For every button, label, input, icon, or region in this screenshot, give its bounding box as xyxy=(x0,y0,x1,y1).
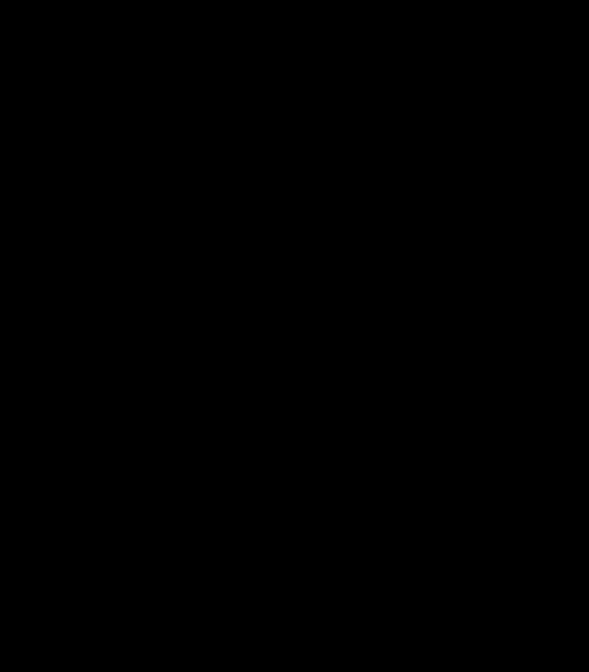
flowchart-canvas xyxy=(0,0,589,672)
frame-border xyxy=(8,8,581,658)
diagram-frame xyxy=(0,0,589,672)
flowchart-page xyxy=(0,0,589,672)
